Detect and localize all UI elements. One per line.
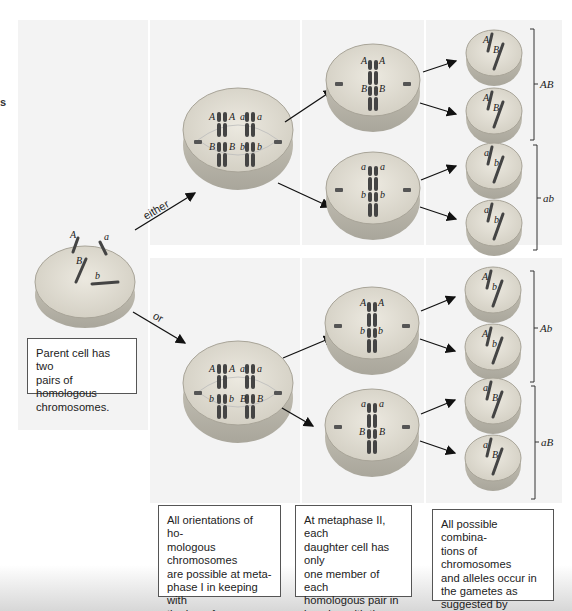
gamete-group-label: aB — [541, 436, 554, 448]
allele-label: a — [380, 161, 385, 172]
allele-label: B — [492, 392, 498, 403]
arrow — [421, 400, 455, 414]
gamete-cell: A B — [466, 88, 522, 144]
either-label: either — [141, 197, 171, 221]
gamete-brackets — [530, 29, 541, 499]
metaphase-ii-cell: a a b b — [326, 152, 420, 240]
arrow — [278, 183, 330, 207]
gamete-cell: A b — [465, 267, 521, 323]
allele-label: a — [104, 231, 109, 242]
allele-label: b — [361, 189, 366, 200]
allele-label: b — [380, 189, 385, 200]
allele-label: a — [240, 363, 245, 374]
allele-label: A — [360, 55, 368, 66]
allele-label: A — [208, 363, 216, 374]
allele-label: a — [379, 398, 384, 409]
allele-label: b — [494, 214, 499, 225]
arrow — [420, 103, 456, 114]
allele-label: B — [229, 141, 235, 152]
metaphase-ii-cell: A A B B — [326, 44, 420, 132]
arrow — [420, 207, 456, 219]
allele-label: b — [378, 325, 383, 336]
metaphase-ii-cell: A A b b — [325, 287, 419, 375]
allele-label: b — [240, 141, 245, 152]
arrow — [423, 61, 456, 72]
allele-label: A — [208, 111, 216, 122]
parent-caption: Parent cell has two pairs of homologous … — [27, 338, 137, 394]
arrow — [420, 339, 455, 351]
allele-label: B — [361, 83, 367, 94]
allele-label: b — [492, 281, 497, 292]
allele-label: B — [76, 255, 82, 266]
allele-label: a — [484, 204, 489, 215]
allele-label: B — [379, 426, 385, 437]
allele-label: a — [483, 439, 488, 450]
allele-label: A — [69, 229, 77, 240]
gamete-cell: a b — [466, 143, 522, 199]
metaphase-i-cell-bottom: A A a a b b B B — [183, 341, 293, 443]
arrow — [421, 297, 455, 311]
gamete-group-label: Ab — [539, 322, 553, 334]
allele-label: B — [209, 141, 215, 152]
allele-label: a — [257, 111, 262, 122]
gametes-caption: All possible combina- tions of chromosom… — [432, 509, 554, 601]
gamete-cell: a B — [465, 378, 521, 434]
allele-label: B — [379, 83, 385, 94]
gamete-group-label: AB — [539, 78, 554, 90]
allele-label: b — [229, 393, 234, 404]
gamete-cell: A B — [466, 30, 522, 86]
parent-cell: A a B b — [35, 229, 135, 328]
or-label: or — [151, 309, 166, 324]
metaphase-i-caption: All orientations of ho- mologous chromos… — [158, 505, 281, 597]
gamete-cell: a b — [466, 200, 522, 256]
allele-label: A — [378, 55, 386, 66]
allele-label: a — [484, 147, 489, 158]
allele-label: a — [483, 382, 488, 393]
allele-label: B — [359, 426, 365, 437]
allele-label: b — [95, 270, 100, 281]
allele-label: a — [361, 398, 366, 409]
metaphase-ii-cell: a a B B — [325, 389, 419, 477]
allele-label: B — [257, 393, 263, 404]
gamete-cell: a B — [465, 435, 521, 491]
allele-label: b — [494, 157, 499, 168]
allele-label: A — [228, 363, 236, 374]
allele-label: A — [377, 297, 385, 308]
allele-label: A — [228, 111, 236, 122]
gamete-cell: A b — [465, 324, 521, 380]
allele-label: b — [360, 325, 365, 336]
gamete-group-label: ab — [543, 192, 555, 204]
allele-label: a — [240, 111, 245, 122]
allele-label: B — [493, 44, 499, 55]
allele-label: b — [257, 141, 262, 152]
allele-label: A — [481, 328, 489, 339]
allele-label: A — [482, 92, 490, 103]
allele-label: B — [492, 449, 498, 460]
arrow — [421, 166, 456, 180]
metaphase-i-cell-top: A A a a B B b b — [183, 88, 293, 190]
allele-label: B — [493, 102, 499, 113]
allele-label: A — [481, 271, 489, 282]
arrow — [420, 441, 455, 453]
allele-label: a — [257, 363, 262, 374]
allele-label: b — [492, 338, 497, 349]
allele-label: A — [482, 34, 490, 45]
allele-label: A — [359, 297, 367, 308]
metaphase-ii-caption: At metaphase II, each daughter cell has … — [295, 505, 412, 597]
allele-label: b — [209, 393, 214, 404]
allele-label: a — [361, 161, 366, 172]
arrow — [285, 90, 333, 122]
allele-label: B — [240, 393, 246, 404]
